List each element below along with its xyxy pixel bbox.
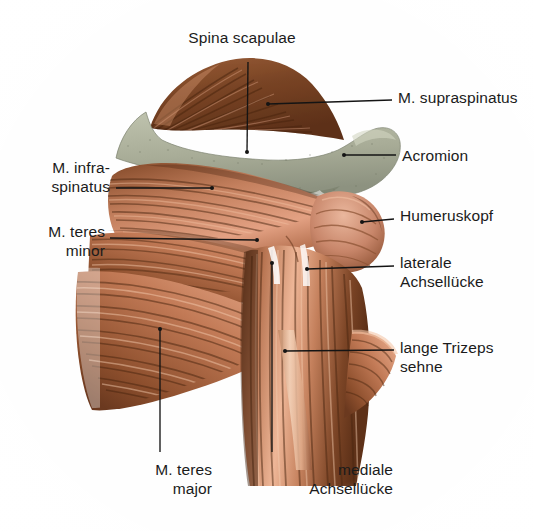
label-m-teres-major: M. teres major — [120, 460, 212, 498]
label-acromion: Acromion — [402, 146, 532, 165]
label-mediale-achsellucke: mediale Achsellücke — [263, 460, 393, 498]
label-m-supraspinatus: M. supraspinatus — [398, 88, 534, 107]
label-spina-scapulae: Spina scapulae — [162, 28, 322, 47]
label-humeruskopf: Humeruskopf — [400, 206, 534, 225]
label-m-infraspinatus: M. infra- spinatus — [0, 158, 110, 196]
label-laterale-achsellucke: laterale Achsellücke — [400, 253, 534, 291]
label-m-teres-minor: M. teres minor — [0, 222, 105, 260]
upper-arm-shape — [240, 246, 398, 486]
anatomy-figure: Spina scapulae M. supraspinatus Acromion… — [0, 0, 534, 531]
label-lange-trizeps-sehne: lange Trizeps sehne — [400, 338, 534, 376]
